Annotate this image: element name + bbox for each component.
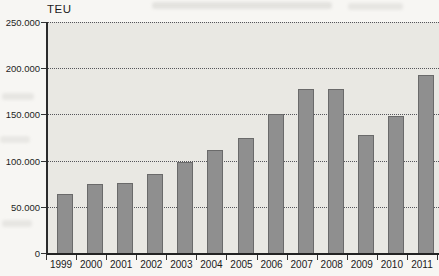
x-axis-tick-label: 2000 (76, 259, 106, 270)
bar-2008 (328, 89, 344, 253)
x-axis-tick-label: 2006 (257, 259, 287, 270)
ghost-text-smudge (152, 2, 332, 9)
ghost-text-smudge (348, 3, 403, 10)
x-axis-tick-label: 2010 (377, 259, 407, 270)
bar-2002 (147, 174, 163, 253)
x-axis-tick-label: 2008 (317, 259, 347, 270)
x-axis-tick-label: 1999 (46, 259, 76, 270)
y-axis-tick-label: 250.000 (0, 17, 40, 28)
x-axis-tick-label: 2003 (166, 259, 196, 270)
x-axis-tick-label: 2001 (106, 259, 136, 270)
y-axis-tick-label: 150.000 (0, 109, 40, 120)
bar-2000 (87, 184, 103, 253)
x-axis-tick-label: 2009 (347, 259, 377, 270)
x-axis-tick (437, 255, 438, 260)
ghost-text-smudge (2, 220, 32, 227)
bar-2004 (207, 150, 223, 253)
x-axis-tick-label: 2011 (407, 259, 437, 270)
x-axis-tick-label: 2004 (196, 259, 226, 270)
bar-2011 (418, 75, 434, 253)
bar-2003 (177, 162, 193, 253)
bar-2010 (388, 116, 404, 253)
y-axis-tick-label: 0 (0, 248, 40, 259)
bar-1999 (57, 194, 73, 253)
x-axis-tick-label: 2005 (226, 259, 256, 270)
ghost-text-smudge (0, 136, 30, 143)
x-axis-tick-label: 2007 (287, 259, 317, 270)
plot-area (46, 22, 439, 255)
y-axis-title: TEU (47, 3, 72, 15)
bar-2007 (298, 89, 314, 253)
y-axis-tick-label: 50.000 (0, 202, 40, 213)
y-axis-tick-label: 200.000 (0, 63, 40, 74)
bar-2001 (117, 183, 133, 253)
x-axis-tick-label: 2002 (136, 259, 166, 270)
container-throughput-bar-chart: TEU 050.000100.000150.000200.000250.000 … (0, 0, 439, 276)
bar-2005 (238, 138, 254, 254)
ghost-text-smudge (2, 93, 34, 100)
y-axis-tick-label: 100.000 (0, 156, 40, 167)
gridline (48, 114, 439, 115)
bar-2006 (268, 114, 284, 253)
gridline (48, 68, 439, 69)
gridline (48, 22, 439, 23)
bar-2009 (358, 135, 374, 253)
